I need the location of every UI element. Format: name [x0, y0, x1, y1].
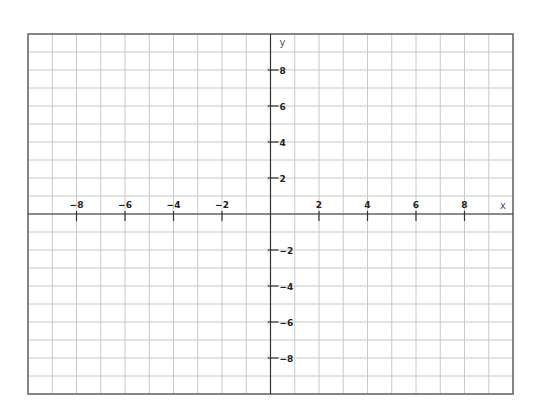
y-tick-label: −6: [280, 318, 294, 328]
x-axis-label: x: [500, 200, 506, 211]
y-tick-label: −8: [280, 354, 294, 364]
y-tick-label: 2: [280, 174, 286, 184]
y-tick-label: −2: [280, 246, 294, 256]
y-tick-label: 4: [280, 138, 286, 148]
y-tick-label: 6: [280, 102, 286, 112]
x-tick-label: −4: [167, 200, 181, 210]
x-tick-label: −6: [118, 200, 132, 210]
x-tick-label: 8: [461, 200, 467, 210]
y-axis-label: y: [280, 37, 286, 48]
x-tick-label: 2: [316, 200, 322, 210]
x-tick-label: 6: [413, 200, 419, 210]
y-tick-label: −4: [280, 282, 294, 292]
x-tick-label: −2: [215, 200, 229, 210]
y-tick-label: 8: [280, 66, 286, 76]
coordinate-plane: −8−6−4−224688642−2−4−6−8 x y: [0, 0, 543, 417]
x-tick-label: 4: [364, 200, 370, 210]
x-tick-label: −8: [70, 200, 84, 210]
